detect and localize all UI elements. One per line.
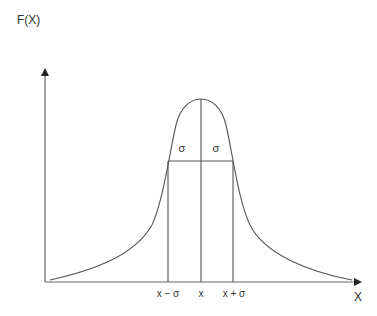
- y-axis-label: F(X): [17, 13, 40, 27]
- tick-label-plus-sigma: x + σ: [223, 288, 246, 299]
- distribution-diagram: F(X) X σ σ x − σ x x + σ: [0, 0, 377, 316]
- sigma-label-left: σ: [179, 142, 186, 154]
- tick-label-minus-sigma: x − σ: [157, 288, 180, 299]
- sigma-label-right: σ: [213, 142, 220, 154]
- x-axis-label: X: [354, 290, 362, 304]
- tick-label-mean: x: [199, 288, 204, 299]
